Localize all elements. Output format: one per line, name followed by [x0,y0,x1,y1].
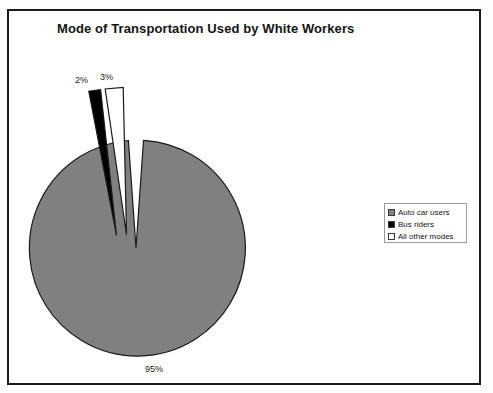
pie-value-label-auto-car-users: 95% [145,364,163,374]
legend-swatch-auto-car-users [388,209,395,216]
pie-value-label-bus-riders: 2% [75,75,88,85]
legend-item-auto-car-users: Auto car users [388,207,463,218]
pie-chart-graphic [0,0,493,393]
chart-legend: Auto car users Bus riders All other mode… [384,203,467,243]
legend-label-auto-car-users: Auto car users [398,208,450,217]
legend-swatch-all-other-modes [388,233,395,240]
legend-item-all-other-modes: All other modes [388,231,463,242]
legend-swatch-bus-riders [388,221,395,228]
chart-figure: Mode of Transportation Used by White Wor… [0,0,493,393]
legend-label-bus-riders: Bus riders [398,220,434,229]
pie-slice-auto-car-users [29,140,245,356]
legend-item-bus-riders: Bus riders [388,219,463,230]
pie-value-label-all-other-modes: 3% [100,72,113,82]
legend-label-all-other-modes: All other modes [398,232,454,241]
